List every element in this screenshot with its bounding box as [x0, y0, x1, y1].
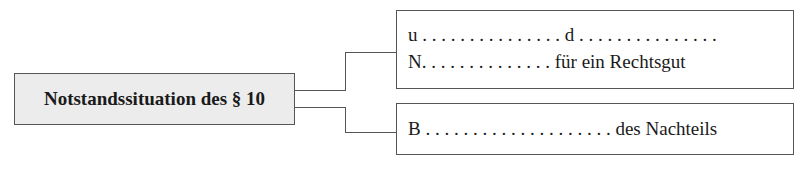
connector-lower-h2: [345, 132, 396, 133]
branch-node-2: B . . . . . . . . . . . . . . . . . . . …: [396, 103, 794, 155]
root-label: Notstandssituation des § 10: [44, 88, 265, 110]
connector-upper-h2: [345, 52, 396, 53]
branch-2-line-1: B . . . . . . . . . . . . . . . . . . . …: [408, 104, 793, 154]
connector-upper-h1: [295, 90, 346, 91]
connector-upper-v: [345, 52, 346, 91]
branch-node-1: u . . . . . . . . . . . . . . . d . . . …: [396, 10, 794, 89]
root-node: Notstandssituation des § 10: [14, 73, 295, 125]
branch-1-line-2: N. . . . . . . . . . . . . . für ein Rec…: [408, 48, 793, 75]
connector-lower-v: [345, 107, 346, 133]
connector-lower-h1: [295, 107, 346, 108]
branch-1-line-1: u . . . . . . . . . . . . . . . d . . . …: [408, 21, 793, 48]
